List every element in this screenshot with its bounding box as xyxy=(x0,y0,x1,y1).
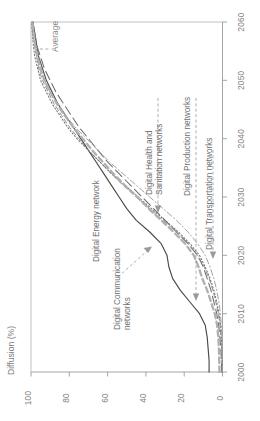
y-tick-label-100: 100 xyxy=(23,391,33,406)
diffusion-s-curve-chart: 2000 2010 2020 2030 2040 2050 2060 0 20 … xyxy=(0,0,260,421)
arrowhead-communication xyxy=(144,247,152,253)
label-health-line1: Digital Health and xyxy=(145,130,154,195)
x-tick-label-2040: 2040 xyxy=(236,129,246,149)
x-tick-label-2050: 2050 xyxy=(236,70,246,90)
label-communication-line2: networks xyxy=(123,297,132,330)
label-transportation: Digital Transportation networks xyxy=(205,138,214,250)
label-average: Average xyxy=(50,21,60,52)
leader-communication xyxy=(118,251,147,277)
y-tick-label-60: 60 xyxy=(100,393,110,403)
y-tick-label-40: 40 xyxy=(138,393,148,403)
x-tick-label-2010: 2010 xyxy=(236,304,246,324)
arrowhead-health xyxy=(155,206,161,214)
x-tick-label-2060: 2060 xyxy=(236,12,246,32)
y-tick-label-80: 80 xyxy=(61,393,71,403)
series-annotations: Average Digital Energy network Digital C… xyxy=(50,21,214,330)
label-energy: Digital Energy network xyxy=(92,179,101,262)
arrowhead-production xyxy=(193,294,199,302)
y-tick-label-0: 0 xyxy=(215,395,225,400)
label-communication-line1: Digital Communication xyxy=(113,248,122,330)
x-tick-label-2030: 2030 xyxy=(236,187,246,207)
label-health-line2: Sanitation networks xyxy=(155,124,164,195)
x-tick-label-2020: 2020 xyxy=(236,245,246,265)
chart-svg: 2000 2010 2020 2030 2040 2050 2060 0 20 … xyxy=(0,0,260,421)
y-axis-title: Diffusion (%) xyxy=(6,326,16,375)
x-tick-label-2000: 2000 xyxy=(236,362,246,382)
year-axis-ticks: 2000 2010 2020 2030 2040 2050 2060 xyxy=(223,12,247,382)
y-tick-label-20: 20 xyxy=(176,393,186,403)
diffusion-axis-ticks: 0 20 40 60 80 100 Diffusion (%) xyxy=(6,326,225,405)
arrowhead-transportation xyxy=(210,252,216,260)
label-production: Digital Production networks xyxy=(183,97,192,196)
